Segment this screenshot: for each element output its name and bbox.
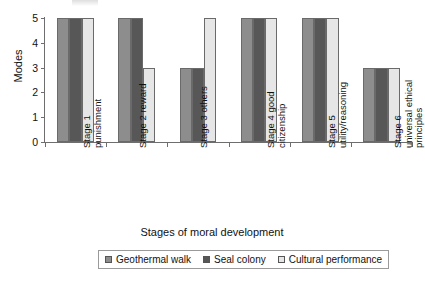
bar	[314, 18, 326, 142]
y-tick-label: 0	[20, 137, 38, 148]
x-category-label: Stage 3 others	[199, 74, 210, 148]
bar	[57, 18, 69, 142]
y-tick-label: 2	[20, 87, 38, 98]
x-axis-title: Stages of moral development	[0, 226, 424, 238]
x-tick-mark	[351, 143, 352, 147]
legend-item: Cultural performance	[278, 254, 382, 265]
legend-label: Geothermal walk	[116, 254, 191, 265]
x-tick-mark	[229, 143, 230, 147]
legend-swatch	[278, 256, 285, 263]
bar	[69, 18, 81, 142]
bar	[241, 18, 253, 142]
bar	[363, 68, 375, 142]
legend-item: Seal colony	[203, 254, 266, 265]
x-category-label: Stage 6 universal ethical principles	[393, 74, 425, 148]
bar	[180, 68, 192, 142]
bar	[253, 18, 265, 142]
bar	[118, 18, 130, 142]
y-tick-label: 1	[20, 112, 38, 123]
y-tick-label: 4	[20, 38, 38, 49]
x-tick-mark	[106, 143, 107, 147]
legend-label: Cultural performance	[289, 254, 382, 265]
legend-item: Geothermal walk	[105, 254, 191, 265]
legend-swatch	[105, 256, 112, 263]
cropped-title-artifact	[72, 0, 98, 6]
bar	[375, 68, 387, 142]
x-tick-mark	[45, 143, 46, 147]
chart-legend: Geothermal walkSeal colonyCultural perfo…	[98, 250, 389, 269]
x-category-label: Stage 1 punishment	[82, 74, 103, 148]
x-tick-mark	[290, 143, 291, 147]
x-category-label: Stage 2 reward	[138, 74, 149, 148]
x-tick-mark	[167, 143, 168, 147]
bar	[302, 18, 314, 142]
legend-label: Seal colony	[214, 254, 266, 265]
legend-swatch	[203, 256, 210, 263]
x-category-label: Stage 5 utility/reasoning	[327, 74, 348, 148]
y-tick-label: 3	[20, 63, 38, 74]
x-category-label: Stage 4 good citizenship	[266, 74, 287, 148]
y-tick-label: 5	[20, 13, 38, 24]
